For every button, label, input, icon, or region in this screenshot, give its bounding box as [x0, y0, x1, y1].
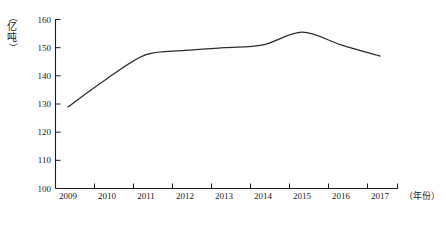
y-axis-ticks	[56, 20, 61, 161]
x-tick-label-2017: 2017	[371, 191, 390, 201]
x-tick-label-2015: 2015	[293, 191, 312, 201]
data-series-line	[68, 32, 380, 107]
x-tick-label-2009: 2009	[59, 191, 78, 201]
y-axis-tick-labels: 160 150 140 130 120 110 100	[38, 15, 52, 194]
x-tick-label-2013: 2013	[215, 191, 234, 201]
chart-figure: （ 亿 吨 ） 160 150 140 130 120 110 100	[0, 0, 446, 225]
x-axis-tick-labels: 2009 2010 2011 2012 2013 2014 2015 2016 …	[59, 191, 390, 201]
y-tick-label-130: 130	[38, 99, 52, 109]
x-tick-label-2011: 2011	[137, 191, 155, 201]
x-tick-label-2010: 2010	[98, 191, 117, 201]
y-tick-label-120: 120	[38, 127, 52, 137]
x-tick-label-2012: 2012	[176, 191, 194, 201]
x-tick-label-2014: 2014	[254, 191, 273, 201]
x-axis-ticks	[95, 184, 398, 189]
y-tick-label-150: 150	[38, 43, 52, 53]
x-tick-label-2016: 2016	[332, 191, 351, 201]
y-tick-label-160: 160	[38, 15, 52, 25]
y-tick-label-100: 100	[38, 184, 52, 194]
x-axis-caption: （年份）	[404, 190, 440, 201]
y-tick-label-110: 110	[38, 155, 52, 165]
line-chart-plot: 160 150 140 130 120 110 100 2009 2010 20…	[0, 0, 446, 225]
y-tick-label-140: 140	[38, 71, 52, 81]
